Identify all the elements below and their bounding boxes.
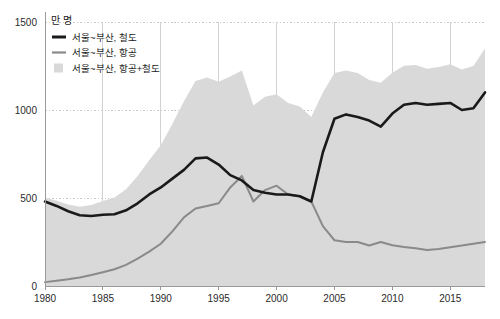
y-tick-label: 1500: [15, 17, 38, 28]
legend-item-label: 서울~부산, 철도: [72, 32, 137, 43]
line-chart: 050010001500 198019851990199520002005201…: [0, 0, 500, 319]
legend-item-label: 서울~부산, 항공: [72, 47, 137, 58]
x-tick-label: 1980: [34, 293, 57, 304]
legend-item-label: 서울~부산, 항공+철도: [72, 63, 160, 74]
y-axis-unit-label: 만 명: [51, 15, 72, 26]
x-tick-label: 1985: [92, 293, 115, 304]
x-tick-label: 2000: [265, 293, 288, 304]
x-tick-label: 1995: [208, 293, 231, 304]
y-tick-label: 0: [31, 281, 37, 292]
chart-container: 050010001500 198019851990199520002005201…: [0, 0, 500, 319]
y-tick-label: 1000: [15, 105, 38, 116]
x-tick-label: 2015: [439, 293, 462, 304]
x-tick-label: 2010: [381, 293, 404, 304]
x-tick-label: 1990: [150, 293, 173, 304]
x-tick-label: 2005: [323, 293, 346, 304]
y-tick-label: 500: [20, 193, 37, 204]
legend-swatch: [54, 64, 63, 73]
